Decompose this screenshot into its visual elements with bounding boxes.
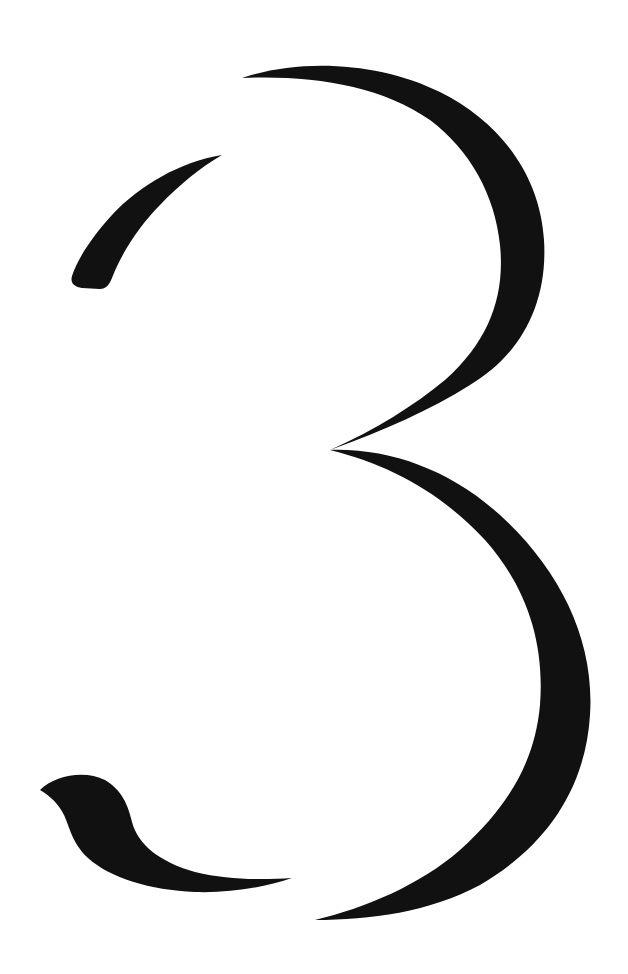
numeral-canvas: 3: [0, 0, 628, 974]
numeral-three-glyph: [0, 0, 628, 974]
upper-bowl: [242, 66, 544, 450]
top-left-stroke: [71, 155, 222, 289]
lower-bowl: [315, 450, 590, 920]
bottom-left-tail: [40, 775, 292, 892]
